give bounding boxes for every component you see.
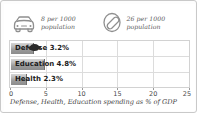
infographic-inner: 8 per 1000 population 26 per 1000 popula… (4, 4, 195, 111)
chart-bar-label: Education 4.8% (15, 59, 76, 70)
chart-gridline (82, 41, 83, 87)
stat-item-telephones: 26 per 1000 population (100, 12, 192, 33)
bar-chart: Defense 3.2%Education 4.8%Health 2.3% (9, 40, 190, 88)
statistics-strip: 8 per 1000 population 26 per 1000 popula… (8, 7, 191, 38)
axis-tick-label: 10 (77, 90, 85, 98)
axis-tick-label: 15 (113, 90, 121, 98)
stat-value-telephones: 26 per 1000 (127, 15, 166, 22)
chart-caption: Defense, Health, Education spending as %… (10, 98, 194, 107)
axis-tick-label: 0 (9, 90, 13, 98)
infographic-panel: 8 per 1000 population 26 per 1000 popula… (0, 0, 197, 113)
stat-item-cars: 8 per 1000 population (8, 12, 100, 34)
chart-bar-label: Defense 3.2% (15, 43, 69, 54)
chart-bar-row[interactable]: Defense 3.2% (11, 43, 34, 54)
chart-bar-row[interactable]: Education 4.8% (11, 59, 45, 70)
car-icon (11, 12, 37, 34)
axis-tick-label: 5 (44, 90, 48, 98)
stat-text-telephones: 26 per 1000 population (127, 15, 166, 30)
telephone-receiver-icon (102, 12, 122, 33)
stat-text-cars: 8 per 1000 population (41, 15, 76, 30)
chart-row-separator (10, 56, 189, 57)
chart-x-axis: 0510152025 (9, 88, 190, 98)
chart-plot-area: Defense 3.2%Education 4.8%Health 2.3% (9, 40, 190, 88)
stat-unit-cars: population (41, 23, 76, 31)
chart-gridline (117, 41, 118, 87)
axis-tick-label: 20 (149, 90, 157, 98)
stat-value-cars: 8 per 1000 (41, 15, 76, 22)
chart-bar-row[interactable]: Health 2.3% (11, 74, 27, 85)
stat-unit-telephones: population (127, 23, 166, 31)
chart-row-separator (10, 72, 189, 73)
chart-gridline (153, 41, 154, 87)
axis-tick-label: 25 (183, 90, 191, 98)
chart-bar-label: Health 2.3% (15, 74, 63, 85)
